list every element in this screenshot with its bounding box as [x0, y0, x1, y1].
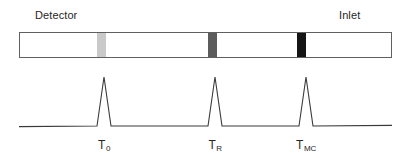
tick-t0-sub: 0: [106, 144, 110, 153]
tick-t0-text: T: [98, 138, 105, 152]
tick-label-t0: T0: [98, 139, 110, 152]
chromatogram-trace: [0, 0, 411, 165]
figure-chromatogram-diagram: Detector Inlet T0 TR TMC: [0, 0, 411, 165]
tick-tr-sub: R: [216, 144, 222, 153]
tick-label-tmc: TMC: [296, 139, 316, 152]
column-band-t0: [97, 33, 106, 57]
inlet-label: Inlet: [339, 9, 360, 21]
column-band-tmc: [297, 33, 306, 57]
detector-label: Detector: [35, 9, 77, 21]
signal-line: [19, 77, 392, 127]
tick-tmc-text: T: [296, 138, 303, 152]
tick-tr-text: T: [208, 138, 215, 152]
tick-label-tr: TR: [208, 139, 221, 152]
tick-tmc-sub: MC: [304, 144, 316, 153]
column-band-tr: [208, 33, 217, 57]
chromatographic-column: [19, 32, 392, 58]
